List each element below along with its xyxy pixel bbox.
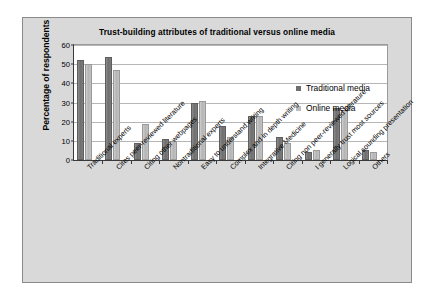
y-tick-label: 50 (62, 60, 70, 69)
bar-group (159, 45, 187, 160)
x-tick-mark (273, 160, 274, 164)
legend-label: Traditional media (306, 83, 370, 93)
y-tick-label: 30 (62, 98, 70, 107)
bar-online[interactable] (284, 143, 291, 160)
bar-traditional[interactable] (162, 139, 169, 160)
bar-group (245, 45, 273, 160)
x-tick-mark (330, 160, 331, 164)
bar-traditional[interactable] (134, 143, 141, 160)
legend-swatch-icon (296, 106, 301, 111)
bar-traditional[interactable] (219, 126, 226, 161)
bar-group (74, 45, 102, 160)
bar-traditional[interactable] (305, 152, 312, 160)
bar-group (131, 45, 159, 160)
y-tick-label: 0 (66, 156, 70, 165)
bar-traditional[interactable] (276, 137, 283, 160)
y-tick-label: 60 (62, 41, 70, 50)
x-tick-mark (102, 160, 103, 164)
bar-traditional[interactable] (362, 150, 369, 160)
x-tick-mark (302, 160, 303, 164)
bar-traditional[interactable] (105, 57, 112, 161)
chart-legend: Traditional mediaOnline media (296, 80, 406, 120)
bar-traditional[interactable] (191, 103, 198, 161)
plot-area: 0102030405060 Traditional mediaOnline me… (73, 44, 388, 161)
x-tick-mark (216, 160, 217, 164)
chart-title: Trust-building attributes of traditional… (23, 27, 411, 37)
y-tick-label: 10 (62, 136, 70, 145)
legend-item[interactable]: Online media (296, 100, 406, 116)
y-axis-title: Percentage of respondents (41, 15, 51, 135)
bar-online[interactable] (85, 64, 92, 160)
bar-group (102, 45, 130, 160)
x-tick-mark (159, 160, 160, 164)
x-tick-mark (131, 160, 132, 164)
bar-online[interactable] (256, 116, 263, 160)
y-tick-label: 40 (62, 79, 70, 88)
chart-figure: Trust-building attributes of traditional… (22, 17, 412, 283)
bar-online[interactable] (227, 137, 234, 160)
y-tick-label: 20 (62, 117, 70, 126)
bar-group (216, 45, 244, 160)
x-tick-mark (387, 160, 388, 164)
bar-online[interactable] (142, 124, 149, 160)
bar-traditional[interactable] (77, 60, 84, 160)
bar-online[interactable] (113, 70, 120, 160)
legend-label: Online media (306, 103, 355, 113)
bar-online[interactable] (170, 141, 177, 160)
x-tick-mark (359, 160, 360, 164)
bar-online[interactable] (199, 101, 206, 160)
legend-swatch-icon (296, 86, 301, 91)
x-tick-mark (188, 160, 189, 164)
bar-online[interactable] (370, 152, 377, 160)
bar-group (188, 45, 216, 160)
x-tick-mark (245, 160, 246, 164)
bar-online[interactable] (313, 150, 320, 160)
bar-traditional[interactable] (248, 116, 255, 160)
legend-item[interactable]: Traditional media (296, 80, 406, 96)
